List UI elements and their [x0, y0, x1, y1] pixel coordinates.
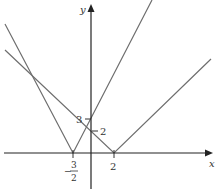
series-abs-x-minus-2	[5, 50, 211, 153]
y-axis-label: y	[79, 4, 86, 15]
y-axis-arrow-icon	[88, 4, 95, 12]
x-tick-label-neg-denominator: 2	[71, 173, 77, 183]
x-axis-arrow-icon	[205, 150, 213, 157]
x-tick-label-2: 2	[110, 161, 116, 172]
y-tick-label-3: 3	[76, 114, 82, 125]
x-tick-label-neg-numerator: 3	[71, 160, 77, 170]
graph: y x 3 2 2 − 3 2	[0, 0, 218, 189]
y-tick-label-2: 2	[100, 126, 106, 137]
series-abs-2x-plus-3	[5, 0, 152, 153]
x-axis-label: x	[209, 158, 215, 169]
